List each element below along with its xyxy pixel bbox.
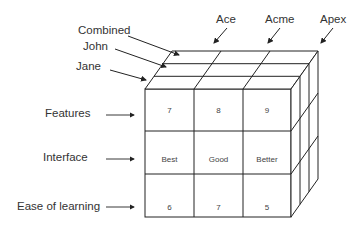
label-interface: Interface [43,151,88,163]
cell-ease-apex: 5 [265,203,270,212]
label-features: Features [45,107,91,119]
data-cube-diagram: 7 8 9 Best Good Better 6 7 5 Combined Jo… [0,0,360,244]
cell-interface-apex: Better [256,155,278,164]
depth-labels: Combined John Jane [76,24,130,72]
arrow-jane-icon [110,70,146,80]
column-labels: Ace Acme Apex [216,13,346,25]
label-ease-of-learning: Ease of learning [17,200,100,212]
label-ace: Ace [216,13,236,25]
label-combined: Combined [78,24,130,36]
label-jane: Jane [76,60,101,72]
arrow-ace-icon [214,28,227,43]
row-labels: Features Interface Ease of learning [17,107,100,212]
label-john: John [83,40,108,52]
cell-ease-acme: 7 [216,203,221,212]
cell-features-acme: 8 [216,106,221,115]
arrow-apex-icon [321,28,333,43]
cell-interface-ace: Best [161,155,178,164]
cell-ease-ace: 6 [167,203,172,212]
cell-interface-acme: Good [209,155,229,164]
row-arrows [106,115,134,207]
arrow-combined-icon [128,36,179,55]
cell-features-apex: 9 [265,106,270,115]
label-acme: Acme [265,13,294,25]
arrow-acme-icon [268,28,280,43]
cube [145,51,318,217]
cell-features-ace: 7 [167,106,172,115]
column-arrows [214,28,333,43]
label-apex: Apex [320,13,346,25]
arrow-john-icon [115,49,166,67]
